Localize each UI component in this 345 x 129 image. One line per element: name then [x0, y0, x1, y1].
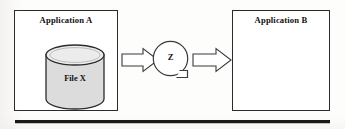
application-b-title: Application B [233, 16, 329, 25]
application-b-box: Application B Copy of File X [232, 10, 330, 111]
block-arrow-right-icon-2 [192, 47, 232, 73]
process-circle-icon: Z [152, 40, 194, 82]
figure-canvas: Application A File X Z Application B [0, 0, 345, 129]
application-a-title: Application A [15, 16, 117, 25]
application-a-box: Application A File X [14, 10, 118, 111]
horizontal-rule [15, 120, 330, 123]
database-cylinder-icon-source: File X [44, 44, 106, 110]
